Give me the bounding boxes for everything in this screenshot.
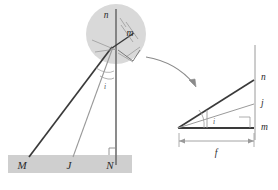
label-i-main: i	[104, 82, 106, 91]
label-n-detail: n	[261, 72, 266, 82]
label-N: N	[105, 159, 114, 171]
ray-to-M	[29, 47, 112, 157]
label-j-detail: j	[259, 98, 264, 108]
geometry-figure: M J N n m i n j m i f	[0, 0, 278, 190]
detail-ray-j	[178, 104, 254, 128]
detail-ray-n	[178, 80, 254, 128]
callout-arrow	[146, 57, 194, 84]
figure-root: M J N n m i n j m i f	[0, 0, 278, 190]
dimension-arrow-right	[248, 139, 254, 144]
callout-arrow-head	[189, 79, 196, 87]
ray-to-J	[73, 47, 113, 157]
label-m-detail: m	[261, 122, 268, 132]
label-m-main: m	[127, 28, 134, 38]
dimension-arrow-left	[179, 139, 185, 144]
label-i-detail: i	[213, 117, 215, 126]
label-M: M	[16, 159, 27, 171]
label-n-main: n	[104, 10, 109, 20]
right-angle-marker-detail	[239, 117, 250, 128]
label-f-dimension: f	[215, 148, 219, 158]
right-angle-marker-N	[109, 148, 116, 155]
